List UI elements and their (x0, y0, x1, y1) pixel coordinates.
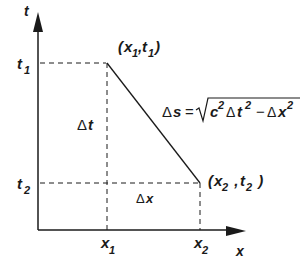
svg-text:−: − (256, 103, 265, 120)
interval-segment (107, 63, 200, 183)
svg-text:t: t (88, 116, 94, 133)
svg-text:Δ: Δ (267, 104, 276, 120)
svg-text:x: x (277, 103, 287, 120)
tick-x2: x 2 (193, 234, 208, 256)
svg-text:=: = (185, 103, 194, 120)
svg-text:): ) (153, 38, 160, 55)
svg-text:t: t (17, 55, 23, 72)
svg-text:1: 1 (148, 47, 154, 59)
t-axis-label: t (24, 3, 30, 19)
svg-text:2: 2 (201, 244, 208, 256)
svg-text:Δ: Δ (162, 103, 172, 120)
point-1-label: ( x 1 , t 1 ) (118, 38, 160, 59)
svg-text:Δ: Δ (226, 104, 235, 120)
spacetime-diagram: t x t 1 t 2 x 1 x 2 ( x 1 , t 1 ) ( x 2 … (0, 0, 307, 268)
svg-text:t: t (17, 175, 23, 192)
svg-text:2: 2 (244, 99, 251, 111)
svg-text:Δ: Δ (77, 116, 87, 133)
delta-t-label: Δ t (77, 116, 94, 133)
tick-t2: t 2 (17, 175, 30, 196)
svg-text:2: 2 (23, 184, 30, 196)
svg-text:t: t (237, 103, 243, 120)
svg-text:x: x (145, 191, 154, 206)
svg-text:Δ: Δ (136, 191, 145, 206)
svg-text:2: 2 (217, 99, 224, 111)
svg-text:1: 1 (109, 244, 115, 256)
delta-x-label: Δ x (136, 191, 154, 206)
t-axis-arrow-icon (33, 12, 43, 32)
point-2-label: ( x 2 , t 2 ) (208, 172, 263, 193)
x-axis-arrow-icon (226, 226, 246, 236)
svg-text:1: 1 (24, 64, 30, 76)
interval-formula: Δ s = c 2 Δ t 2 − Δ x 2 (162, 98, 300, 121)
tick-x1: x 1 (100, 234, 115, 256)
svg-text:s: s (173, 103, 181, 120)
svg-text:): ) (254, 172, 263, 189)
svg-text:2: 2 (286, 99, 293, 111)
svg-text:2: 2 (245, 181, 252, 193)
svg-text:2: 2 (221, 181, 228, 193)
tick-t1: t 1 (17, 55, 30, 76)
x-axis-label: x (235, 243, 245, 259)
